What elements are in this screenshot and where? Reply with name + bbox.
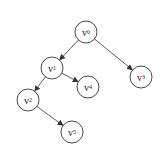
edge-v0-v3 <box>95 39 133 70</box>
node-v4 <box>77 76 99 98</box>
node-v0 <box>75 21 97 43</box>
tree-diagram: v0v1v3v4v2v5 <box>0 0 164 156</box>
node-v5 <box>61 121 83 143</box>
edge-v0-v1 <box>60 40 79 60</box>
nodes <box>17 21 152 143</box>
node-v1 <box>41 57 63 79</box>
tree-diagram-graphic <box>0 0 164 156</box>
node-v3 <box>130 66 152 88</box>
edge-v2-v5 <box>37 106 63 125</box>
edge-v1-v2 <box>35 77 46 91</box>
edge-v1-v4 <box>62 73 78 81</box>
node-v2 <box>17 89 39 111</box>
